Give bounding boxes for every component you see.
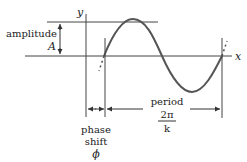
- curve-extension-left: [99, 56, 104, 71]
- phase-label-2: shift: [85, 136, 108, 147]
- period-numerator: 2π: [161, 109, 174, 120]
- y-axis-label: y: [76, 6, 84, 19]
- x-axis-label: x: [235, 50, 242, 63]
- phase-symbol: ϕ: [92, 148, 100, 161]
- phase-label-1: phase: [81, 124, 111, 135]
- curve-extension-right: [222, 41, 227, 56]
- amplitude-symbol: A: [47, 40, 56, 53]
- sinusoid-diagram: y x amplitude A phase shift ϕ period 2π …: [0, 0, 247, 162]
- period-label: period: [151, 96, 184, 107]
- period-denominator: k: [164, 123, 171, 134]
- amplitude-label: amplitude: [6, 28, 57, 39]
